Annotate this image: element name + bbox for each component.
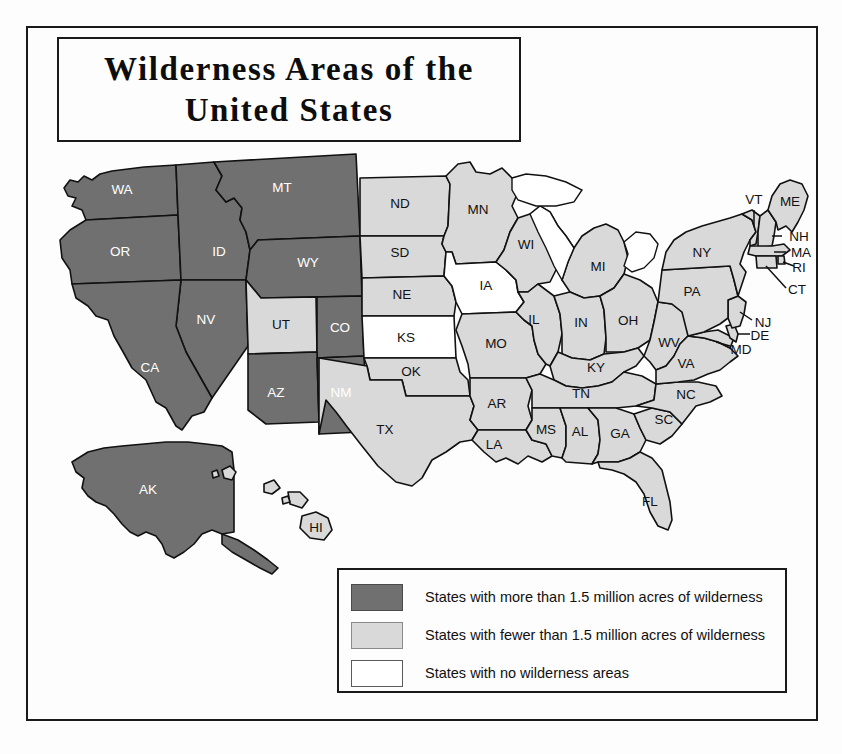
state-label-NH: NH [789,229,809,244]
state-NJ[interactable] [728,296,746,328]
state-label-HI: HI [309,520,323,535]
state-label-AL: AL [572,424,589,439]
map-svg: WA OR ID MT WY NV CA UT CO AZ NM ND SD N… [26,140,818,580]
state-label-IL: IL [528,312,540,327]
state-label-UT: UT [272,317,290,332]
state-label-NY: NY [693,245,712,260]
state-label-MN: MN [468,202,489,217]
state-label-CO: CO [330,320,350,335]
state-label-NM: NM [331,385,352,400]
state-label-PA: PA [683,284,700,299]
state-label-AZ: AZ [267,385,284,400]
state-MA[interactable] [748,244,790,256]
title-box: Wilderness Areas of the United States [57,37,521,142]
state-label-AK: AK [139,482,157,497]
state-label-MD: MD [731,342,752,357]
state-label-KS: KS [397,330,415,345]
wilderness-map-page: Wilderness Areas of the United States [0,0,842,754]
state-label-RI: RI [792,260,806,275]
state-label-VT: VT [745,192,762,207]
state-label-VA: VA [677,356,694,371]
state-label-MI: MI [591,259,606,274]
great-lakes-huron-erie [624,232,658,272]
state-label-TX: TX [376,422,393,437]
state-label-OK: OK [401,364,421,379]
leader-line-CT [766,266,786,288]
title-line-2: United States [185,92,394,128]
hawaii-island-5 [282,496,290,504]
us-map: WA OR ID MT WY NV CA UT CO AZ NM ND SD N… [26,140,818,580]
state-label-OR: OR [110,244,131,259]
state-label-DE: DE [751,328,770,343]
legend-swatch-none [351,660,403,687]
legend-swatch-fewer-than [351,622,403,649]
state-label-ME: ME [780,194,800,209]
state-label-LA: LA [486,437,503,452]
state-label-GA: GA [610,426,630,441]
state-label-NE: NE [393,287,412,302]
hawaii-island-3 [264,480,280,494]
state-label-TN: TN [572,386,590,401]
legend-item[interactable]: States with no wilderness areas [351,655,785,691]
state-label-OH: OH [618,313,638,328]
state-label-WI: WI [518,237,535,252]
state-label-WA: WA [111,182,132,197]
state-label-SC: SC [655,412,674,427]
state-label-MO: MO [485,336,507,351]
legend-label-none: States with no wilderness areas [425,665,629,681]
state-label-WV: WV [658,335,680,350]
state-label-IN: IN [574,315,588,330]
state-label-MT: MT [272,180,292,195]
legend-item[interactable]: States with more than 1.5 million acres … [351,579,785,615]
state-label-ID: ID [212,244,226,259]
state-label-SD: SD [391,245,410,260]
state-label-MA: MA [791,245,811,260]
legend-item[interactable]: States with fewer than 1.5 million acres… [351,617,785,653]
legend-label-fewer-than: States with fewer than 1.5 million acres… [425,627,765,643]
title-line-1: Wilderness Areas of the [104,51,474,87]
state-AK[interactable] [72,442,234,558]
state-FL[interactable] [598,452,672,530]
page-title: Wilderness Areas of the United States [92,49,486,130]
great-lakes-superior [512,174,582,206]
state-label-CT: CT [788,282,806,297]
hawaii-island-4 [288,492,308,508]
state-label-FL: FL [642,494,658,509]
map-legend: States with more than 1.5 million acres … [337,568,787,693]
legend-swatch-more-than [351,584,403,611]
legend-label-more-than: States with more than 1.5 million acres … [425,589,763,605]
state-label-AR: AR [488,396,507,411]
state-label-NC: NC [676,387,696,402]
state-label-WY: WY [297,255,319,270]
state-label-CA: CA [141,360,160,375]
state-label-MS: MS [536,422,556,437]
alaska-aleutians [222,534,278,574]
state-label-IA: IA [480,278,493,293]
state-label-NV: NV [197,312,216,327]
state-label-KY: KY [587,360,605,375]
state-label-ND: ND [390,196,410,211]
hawaii-island-2 [212,470,219,478]
